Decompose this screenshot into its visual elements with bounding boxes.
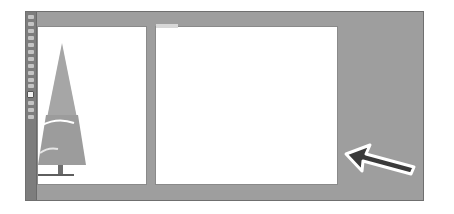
tools-panel bbox=[26, 12, 37, 200]
rectangle-tool-icon[interactable] bbox=[28, 57, 34, 61]
rotate-tool-icon[interactable] bbox=[28, 78, 34, 82]
scale-tool-icon[interactable] bbox=[28, 84, 34, 88]
fill-stroke-swatch[interactable] bbox=[27, 91, 34, 98]
selection-tool-icon[interactable] bbox=[28, 15, 34, 19]
color-mode-icon[interactable] bbox=[28, 101, 34, 105]
artboard-1[interactable] bbox=[38, 27, 146, 184]
tree-trunk bbox=[58, 165, 63, 175]
pencil-tool-icon[interactable] bbox=[28, 71, 34, 75]
screen-mode-icon[interactable] bbox=[28, 115, 34, 119]
callout-arrow-icon bbox=[340, 142, 420, 182]
draw-mode-icon[interactable] bbox=[28, 108, 34, 112]
magic-wand-tool-icon[interactable] bbox=[28, 29, 34, 33]
artboard-2[interactable] bbox=[156, 27, 337, 184]
direct-selection-tool-icon[interactable] bbox=[28, 22, 34, 26]
pen-tool-icon[interactable] bbox=[28, 36, 34, 40]
ground-line bbox=[38, 174, 74, 176]
paintbrush-tool-icon[interactable] bbox=[28, 64, 34, 68]
line-tool-icon[interactable] bbox=[28, 50, 34, 54]
type-tool-icon[interactable] bbox=[28, 43, 34, 47]
christmas-tree-illustration[interactable] bbox=[38, 27, 146, 184]
artboard-label bbox=[156, 24, 178, 28]
